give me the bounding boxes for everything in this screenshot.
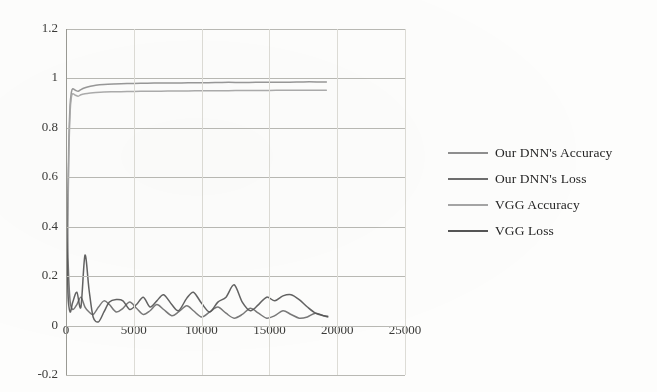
gridline-horizontal — [66, 177, 405, 178]
legend-item[interactable]: VGG Accuracy — [448, 192, 653, 218]
gridline-vertical — [337, 29, 338, 375]
y-axis-tick-label: 0.2 — [0, 267, 58, 283]
y-axis-tick-label: 0.6 — [0, 168, 58, 184]
plot-area — [66, 29, 405, 375]
gridline-horizontal — [66, 29, 405, 30]
gridline-horizontal — [66, 326, 405, 327]
series-line — [66, 145, 328, 318]
y-axis-tick-label: 0.4 — [0, 218, 58, 234]
gridline-horizontal — [66, 227, 405, 228]
series-line — [66, 90, 326, 323]
legend-swatch-line-icon — [448, 178, 488, 180]
legend-item-label: VGG Loss — [495, 223, 554, 239]
legend-swatch-line-icon — [448, 230, 488, 232]
y-axis-tick-label: 0.8 — [0, 119, 58, 135]
gridline-horizontal — [66, 78, 405, 79]
legend-item-label: VGG Accuracy — [495, 197, 580, 213]
legend-item[interactable]: VGG Loss — [448, 218, 653, 244]
legend-item-label: Our DNN's Accuracy — [495, 145, 612, 161]
legend-item[interactable]: Our DNN's Accuracy — [448, 140, 653, 166]
chart-figure: 1.210.80.60.40.20-0.2 050001000015000200… — [0, 0, 657, 392]
legend-item[interactable]: Our DNN's Loss — [448, 166, 653, 192]
y-axis-tick-label: -0.2 — [0, 366, 58, 382]
y-axis-tick-label: 0 — [0, 317, 58, 333]
gridline-vertical — [134, 29, 135, 375]
y-axis-tick-label: 1 — [0, 69, 58, 85]
gridline-vertical — [405, 29, 406, 375]
legend-swatch-line-icon — [448, 152, 488, 154]
y-axis-tick-label: 1.2 — [0, 20, 58, 36]
data-curves — [66, 29, 405, 375]
legend-swatch-line-icon — [448, 204, 488, 206]
y-axis-line — [66, 29, 67, 375]
legend-item-label: Our DNN's Loss — [495, 171, 587, 187]
gridline-horizontal — [66, 375, 405, 376]
gridline-vertical — [269, 29, 270, 375]
series-line — [66, 82, 326, 321]
gridline-horizontal — [66, 276, 405, 277]
gridline-horizontal — [66, 128, 405, 129]
gridline-vertical — [202, 29, 203, 375]
chart-legend: Our DNN's AccuracyOur DNN's LossVGG Accu… — [448, 140, 653, 244]
